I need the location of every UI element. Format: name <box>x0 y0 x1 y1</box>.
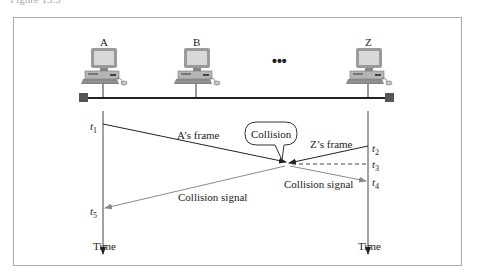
time-label-t1: t1 <box>90 120 97 137</box>
computer-icon-b <box>174 48 220 85</box>
time-label-t2: t2 <box>372 142 379 159</box>
terminator-right-icon <box>385 93 394 102</box>
terminator-left-icon <box>79 93 88 102</box>
z-frame-label: Z’s frame <box>310 138 352 150</box>
station-label-b: B <box>193 36 200 48</box>
time-label-t4: t4 <box>372 176 379 193</box>
time-label-t3: t3 <box>372 158 379 175</box>
a-frame-label: A’s frame <box>177 129 219 141</box>
diagram-canvas: ••• <box>0 0 477 279</box>
time-axis-label-left: Time <box>93 240 116 252</box>
computer-icon-z <box>346 48 392 85</box>
ellipsis: ••• <box>272 53 287 69</box>
collision-signal-left-label: Collision signal <box>178 191 247 203</box>
time-axis-label-right: Time <box>358 240 381 252</box>
station-label-a: A <box>100 36 108 48</box>
computer-icon-a <box>81 48 127 85</box>
time-label-t5: t5 <box>90 205 97 222</box>
collision-signal-right-label: Collision signal <box>284 178 353 190</box>
station-label-z: Z <box>365 36 372 48</box>
collision-label: Collision <box>251 128 291 140</box>
